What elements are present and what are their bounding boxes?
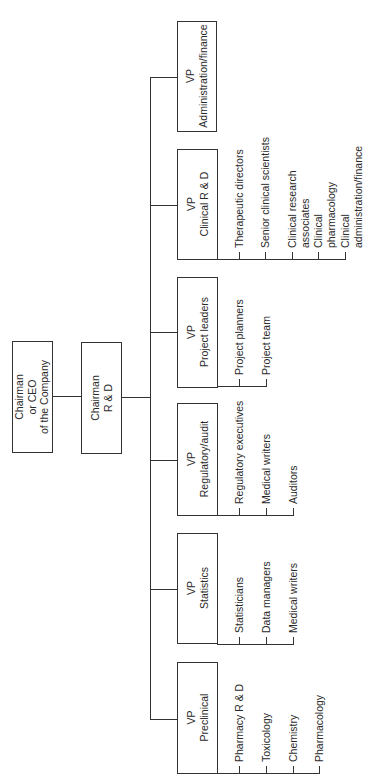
report-tick [319, 766, 320, 773]
report-tick [265, 252, 266, 259]
vp-regulatory-connector [150, 460, 177, 461]
vp-preclinical-label: VP Preclinical [185, 662, 210, 773]
report-tick [266, 508, 267, 515]
report-tick [239, 508, 240, 515]
report-preclinical-3: Pharmacology [313, 695, 326, 762]
report-tick [266, 637, 267, 644]
report-regulatory-2: Auditors [287, 465, 300, 504]
report-tick [239, 379, 240, 386]
report-preclinical-0: Pharmacy R & D [233, 684, 246, 762]
vp-clinical-connector [150, 205, 177, 206]
report-clinical-0: Therapeutic directors [233, 149, 246, 248]
vp-statistics-bracket [217, 644, 294, 645]
ceo-rnd-connector [53, 396, 81, 397]
report-tick [239, 252, 240, 259]
report-statistics-2: Medical writers [287, 563, 300, 633]
vp-preclinical-bracket [217, 773, 320, 774]
vp-statistics-label: VP Statistics [185, 533, 210, 643]
report-project-1: Project team [260, 316, 273, 375]
report-tick [239, 766, 240, 773]
report-tick [293, 637, 294, 644]
report-tick [318, 252, 319, 259]
vp-project-label: VP Project leaders [185, 277, 210, 387]
vp-regulatory-label: VP Regulatory/audit [185, 403, 210, 515]
rnd-trunk-connector [122, 397, 151, 398]
report-statistics-0: Statisticians [233, 577, 246, 633]
report-tick [293, 508, 294, 515]
vp-statistics-connector [150, 589, 177, 590]
trunk-line [150, 77, 151, 720]
report-tick [239, 637, 240, 644]
vp-clinical-bracket [217, 259, 346, 260]
report-clinical-4: Clinical administration/finance [339, 146, 364, 248]
report-tick [345, 252, 346, 259]
report-statistics-1: Data managers [260, 561, 273, 633]
report-clinical-3: Clinical pharmacology [312, 182, 337, 248]
report-tick [292, 252, 293, 259]
vp-preclinical-connector [150, 719, 177, 720]
report-clinical-2: Clinical research associates [286, 170, 311, 248]
report-regulatory-1: Medical writers [260, 434, 273, 504]
report-clinical-1: Senior clinical scientists [259, 137, 272, 248]
report-project-0: Project planners [233, 299, 246, 375]
report-tick [293, 766, 294, 773]
report-regulatory-0: Regulatory executives [233, 401, 246, 504]
vp-admin-label: VP Administration/finance [184, 21, 209, 131]
vp-project-connector [150, 332, 177, 333]
report-tick [266, 766, 267, 773]
vp-project-bracket [217, 386, 267, 387]
vp-admin-connector [150, 77, 177, 78]
report-preclinical-2: Chemistry [287, 715, 300, 762]
vp-clinical-label: VP Clinical R & D [185, 149, 210, 259]
vp-regulatory-bracket [217, 515, 294, 516]
report-tick [266, 379, 267, 386]
rnd-label: Chairman R & D [89, 343, 114, 453]
ceo-label: Chairman or CEO of the Company [13, 342, 51, 452]
report-preclinical-1: Toxicology [260, 713, 273, 762]
